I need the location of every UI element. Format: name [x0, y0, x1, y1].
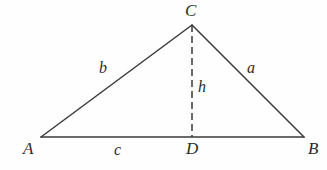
side-label-b: b: [99, 60, 107, 76]
vertex-label-D: D: [186, 140, 198, 157]
vertex-label-B: B: [308, 140, 318, 157]
edge-AC-line: [41, 25, 192, 137]
altitude-label-h: h: [198, 79, 206, 95]
edge-CB-line: [192, 25, 304, 137]
side-label-c: c: [114, 142, 121, 158]
vertex-label-C: C: [185, 2, 196, 19]
geometry-diagram-canvas: A B C D b a c h: [0, 0, 327, 170]
triangle-figure: [0, 0, 327, 170]
side-label-a: a: [247, 60, 255, 76]
vertex-label-A: A: [23, 140, 33, 157]
